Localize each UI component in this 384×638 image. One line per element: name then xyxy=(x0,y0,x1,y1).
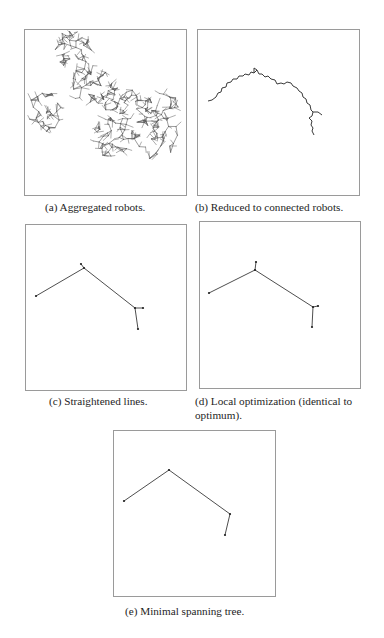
robot-network-plot xyxy=(25,30,188,197)
connected-path-plot xyxy=(198,30,361,197)
panel-e-minimal-spanning-tree xyxy=(113,430,276,597)
spanning-tree-plot xyxy=(114,431,277,598)
caption-a: (a) Aggregated robots. xyxy=(45,200,145,214)
panel-d-local-optimization xyxy=(199,221,361,389)
panel-b-connected-robots xyxy=(197,29,360,196)
caption-b: (b) Reduced to connected robots. xyxy=(195,200,343,214)
straightened-lines-plot xyxy=(26,225,188,392)
panel-a-aggregated-robots xyxy=(24,29,187,196)
caption-d: (d) Local optimization (identical to opt… xyxy=(195,394,365,422)
caption-e: (e) Minimal spanning tree. xyxy=(125,604,244,618)
caption-c: (c) Straightened lines. xyxy=(49,394,147,408)
panel-c-straightened-lines xyxy=(25,224,187,391)
local-optimization-plot xyxy=(200,222,362,390)
